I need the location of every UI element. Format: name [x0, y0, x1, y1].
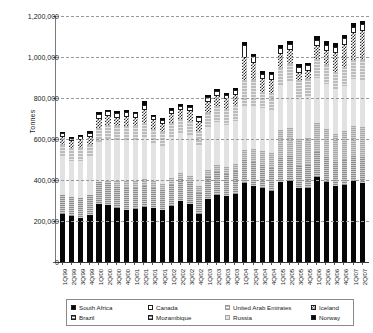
bar-segment-brazil[interactable]	[260, 165, 265, 188]
bar-segment-brazil[interactable]	[278, 158, 283, 182]
bar-segment-russia[interactable]	[205, 128, 210, 169]
bar-segment-south-africa[interactable]	[151, 208, 156, 262]
legend-item-russia[interactable]: Russia	[225, 314, 311, 321]
bar-segment-brazil[interactable]	[233, 171, 238, 194]
bar-segment-brazil[interactable]	[87, 195, 92, 215]
bar-stack-4Q-04[interactable]	[269, 72, 274, 262]
bar-group[interactable]	[331, 16, 340, 262]
bar-group[interactable]	[185, 16, 194, 262]
bar-stack-3Q-00[interactable]	[114, 111, 119, 262]
bar-stack-2Q-99[interactable]	[69, 137, 74, 262]
bar-segment-south-africa[interactable]	[124, 210, 129, 262]
bar-segment-russia[interactable]	[351, 79, 356, 126]
bar-segment-iceland[interactable]	[342, 45, 347, 68]
bar-segment-russia[interactable]	[242, 106, 247, 150]
bar-segment-brazil[interactable]	[224, 174, 229, 197]
bar-stack-2Q-06[interactable]	[324, 41, 329, 262]
bar-segment-south-africa[interactable]	[287, 181, 292, 262]
bar-group[interactable]	[258, 16, 267, 262]
bar-segment-south-africa[interactable]	[214, 195, 219, 262]
bar-segment-south-africa[interactable]	[96, 204, 101, 262]
bar-segment-mozambique[interactable]	[342, 131, 347, 160]
bar-segment-russia[interactable]	[314, 78, 319, 124]
bar-stack-4Q-06[interactable]	[342, 35, 347, 262]
bar-segment-mozambique[interactable]	[214, 165, 219, 172]
bar-segment-iceland[interactable]	[305, 71, 310, 79]
bar-segment-iceland[interactable]	[251, 63, 256, 81]
bar-segment-united-arab-emirates[interactable]	[105, 125, 110, 140]
bar-segment-united-arab-emirates[interactable]	[178, 119, 183, 133]
bar-segment-united-arab-emirates[interactable]	[151, 129, 156, 143]
bar-segment-iceland[interactable]	[142, 110, 147, 124]
bar-segment-russia[interactable]	[178, 134, 183, 173]
bar-group[interactable]	[149, 16, 158, 262]
bar-segment-russia[interactable]	[114, 141, 119, 182]
bar-segment-south-africa[interactable]	[342, 185, 347, 262]
bar-segment-russia[interactable]	[105, 140, 110, 181]
bar-segment-brazil[interactable]	[351, 156, 356, 181]
bar-segment-russia[interactable]	[305, 96, 310, 138]
legend-item-brazil[interactable]: Brazil	[71, 314, 148, 321]
bar-segment-united-arab-emirates[interactable]	[142, 123, 147, 138]
bar-segment-south-africa[interactable]	[251, 186, 256, 262]
bar-segment-iceland[interactable]	[196, 122, 201, 131]
bar-group[interactable]	[294, 16, 303, 262]
bar-segment-russia[interactable]	[124, 140, 129, 181]
bar-segment-russia[interactable]	[287, 82, 292, 127]
bar-segment-south-africa[interactable]	[205, 199, 210, 262]
bar-segment-united-arab-emirates[interactable]	[96, 128, 101, 142]
bar-segment-south-africa[interactable]	[351, 181, 356, 262]
bar-group[interactable]	[322, 16, 331, 262]
bar-segment-brazil[interactable]	[178, 179, 183, 200]
bar-group[interactable]	[140, 16, 149, 262]
bar-segment-brazil[interactable]	[196, 193, 201, 215]
bar-segment-south-africa[interactable]	[105, 205, 110, 262]
bar-segment-iceland[interactable]	[87, 137, 92, 145]
bar-group[interactable]	[85, 16, 94, 262]
bar-segment-united-arab-emirates[interactable]	[278, 68, 283, 86]
bar-segment-united-arab-emirates[interactable]	[169, 123, 174, 138]
bar-segment-iceland[interactable]	[224, 99, 229, 109]
bar-segment-brazil[interactable]	[124, 188, 129, 210]
bar-segment-iceland[interactable]	[124, 117, 129, 126]
bar-segment-united-arab-emirates[interactable]	[224, 109, 229, 125]
bar-segment-iceland[interactable]	[324, 51, 329, 65]
bar-segment-iceland[interactable]	[60, 137, 65, 144]
bar-segment-united-arab-emirates[interactable]	[114, 126, 119, 140]
bar-segment-united-arab-emirates[interactable]	[69, 148, 74, 160]
bar-segment-united-arab-emirates[interactable]	[242, 80, 247, 105]
bar-segment-brazil[interactable]	[242, 160, 247, 184]
bar-segment-south-africa[interactable]	[360, 183, 365, 262]
bar-segment-iceland[interactable]	[333, 53, 338, 72]
bar-group[interactable]	[158, 16, 167, 262]
bar-segment-brazil[interactable]	[105, 183, 110, 205]
bar-segment-brazil[interactable]	[160, 190, 165, 210]
bar-segment-russia[interactable]	[342, 86, 347, 131]
bar-segment-mozambique[interactable]	[314, 123, 319, 152]
bar-segment-brazil[interactable]	[96, 182, 101, 203]
bar-segment-brazil[interactable]	[114, 187, 119, 208]
bar-segment-mozambique[interactable]	[187, 176, 192, 183]
bar-segment-brazil[interactable]	[214, 172, 219, 195]
bar-segment-united-arab-emirates[interactable]	[260, 92, 265, 108]
bar-segment-iceland[interactable]	[269, 80, 274, 93]
bar-group[interactable]	[231, 16, 240, 262]
bar-segment-mozambique[interactable]	[178, 173, 183, 180]
bar-segment-iceland[interactable]	[160, 124, 165, 133]
bar-segment-south-africa[interactable]	[278, 182, 283, 262]
bar-segment-united-arab-emirates[interactable]	[60, 145, 65, 158]
bar-segment-russia[interactable]	[60, 157, 65, 194]
bar-segment-iceland[interactable]	[242, 58, 247, 80]
bar-group[interactable]	[213, 16, 222, 262]
bar-segment-brazil[interactable]	[133, 188, 138, 209]
bar-segment-mozambique[interactable]	[242, 150, 247, 160]
bar-segment-brazil[interactable]	[205, 177, 210, 200]
bar-segment-united-arab-emirates[interactable]	[305, 79, 310, 96]
bar-group[interactable]	[222, 16, 231, 262]
bar-segment-united-arab-emirates[interactable]	[251, 80, 256, 106]
bar-stack-2Q-01[interactable]	[142, 101, 147, 262]
bar-segment-mozambique[interactable]	[142, 179, 147, 186]
bar-stack-2Q-00[interactable]	[105, 110, 110, 262]
bar-stack-4Q-03[interactable]	[233, 88, 238, 262]
bar-segment-iceland[interactable]	[260, 79, 265, 91]
